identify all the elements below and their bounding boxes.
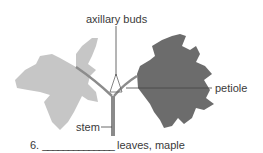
petiole-label: petiole: [215, 83, 247, 94]
stem-shape: [111, 96, 115, 136]
left-leaf: [15, 38, 98, 130]
stem-label: stem: [76, 122, 100, 133]
question-number: 6.: [30, 139, 39, 151]
caption: 6. ______________ leaves, maple: [30, 139, 185, 151]
right-leaf: [137, 34, 214, 128]
caption-text: leaves, maple: [117, 139, 185, 151]
axillary-buds-label: axillary buds: [86, 14, 147, 25]
answer-blank: ______________: [42, 139, 114, 151]
